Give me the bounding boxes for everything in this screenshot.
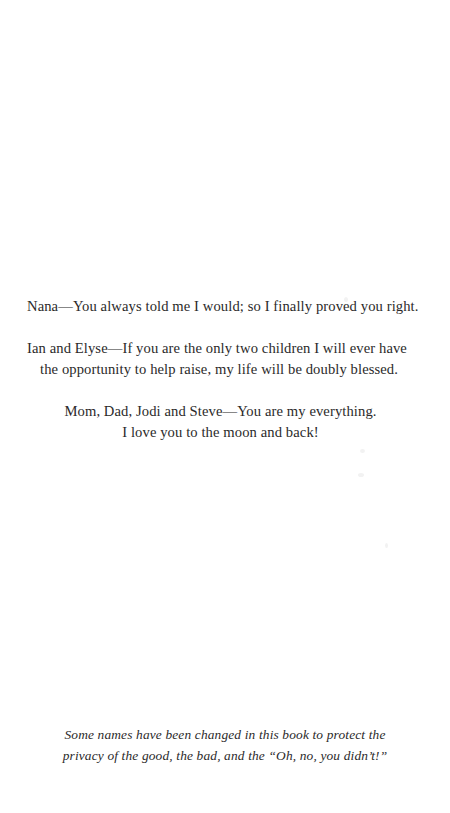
disclaimer-note-line-2: privacy of the good, the bad, and the “O… [60, 745, 390, 766]
scan-speckle [360, 449, 365, 453]
dedication-ian-line-1: Ian and Elyse—If you are the only two ch… [27, 340, 407, 356]
dedication-nana-line-1: Nana—You always told me I would; so I fi… [27, 298, 419, 314]
disclaimer-note-line-1: Some names have been changed in this boo… [64, 727, 385, 742]
scan-speckle [358, 473, 364, 477]
dedication-ian-line-2: the opportunity to help raise, my life w… [27, 359, 421, 380]
scan-speckle [385, 543, 388, 548]
dedication-mom-line-2: I love you to the moon and back! [27, 422, 414, 443]
disclaimer-note: Some names have been changed in this boo… [0, 724, 450, 766]
dedication-paragraph-ian-and-elyse: Ian and Elyse—If you are the only two ch… [27, 338, 423, 380]
dedication-paragraph-mom-dad-jodi-steve: Mom, Dad, Jodi and Steve—You are my ever… [27, 401, 423, 443]
dedication-block: Nana—You always told me I would; so I fi… [0, 296, 450, 443]
dedication-paragraph-nana: Nana—You always told me I would; so I fi… [27, 296, 423, 317]
dedication-mom-line-1: Mom, Dad, Jodi and Steve—You are my ever… [64, 403, 376, 419]
book-dedication-page: Nana—You always told me I would; so I fi… [0, 0, 450, 813]
